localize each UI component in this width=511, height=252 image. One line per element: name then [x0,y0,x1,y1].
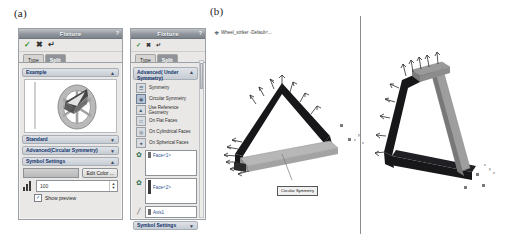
show-preview-label: Show preview [45,195,76,201]
cross-icon[interactable]: ✖ [36,41,43,49]
type-item-symmetry[interactable]: ☰ Symmetry [134,82,197,93]
check-icon[interactable]: ✓ [24,41,31,49]
axis-selection-icon: ╱ [134,206,143,215]
symmetry-icon: ☰ [136,83,146,93]
scrollbar-thumb[interactable] [200,63,203,89]
type-item-use-reference-geometry-label: Use Reference Geometry [149,105,197,115]
axis-selection-box[interactable]: Axis1 [145,206,197,218]
section-advanced[interactable]: Advanced(Circular Symmetry) ▼ [22,146,119,155]
symbol-size-value: 100 [37,183,48,189]
section-symbol-settings-2-label: Symbol Settings [137,222,176,229]
type-item-circular-symmetry[interactable]: ◉ Circular Symmetry [134,93,197,104]
svg-text:x: x [493,171,495,175]
section-symbol-settings[interactable]: Symbol Settings ▲ [22,157,119,166]
dialog-1-toolbar: ✓ ✖ ↵ [19,39,122,52]
help-icon-2[interactable]: ? [199,30,202,36]
dialog-2-toolbar: ✓ ✖ ↵ [131,39,205,52]
tab-type[interactable]: Type [23,54,44,62]
cylindrical-face-icon: ◎ [136,127,146,137]
tab-split[interactable]: Split [45,54,66,62]
tab-split-2[interactable]: Split [157,54,178,62]
type-item-circular-symmetry-label: Circular Symmetry [149,96,186,101]
type-item-on-flat-faces-label: On Flat Faces [149,118,177,123]
symbol-size-icon [23,181,33,191]
panel-a-label: (a) [14,7,27,19]
selection-entry-2: Face<2> [148,180,194,194]
fixture-dialog-2[interactable]: Fixture ? ✓ ✖ ↵ Type Split Advanced( Und… [130,28,206,220]
type-item-symmetry-label: Symmetry [149,85,169,90]
section-standard-label: Standard [26,136,48,143]
face-selection-icon-2: ✿ [134,178,143,187]
selection-marker [148,152,151,158]
check-icon-2[interactable]: ✓ [136,41,141,49]
circular-symmetry-callout: Circular Symmetry [277,186,318,196]
arrow-icon[interactable]: ↵ [48,41,55,49]
chevron-down-icon-advanced[interactable]: ▼ [110,148,115,154]
chevron-down-icon[interactable]: ▼ [110,137,115,143]
part-icon: ❖ [214,29,219,36]
type-item-on-flat-faces[interactable]: □ On Flat Faces [134,115,197,126]
vertical-scrollbar[interactable] [199,60,204,218]
section-advanced-2-label: Advanced( Under Symmetry) [137,69,187,81]
isometric-view-right[interactable]: z y x [372,40,502,205]
cross-icon-2[interactable]: ✖ [146,41,151,49]
chevron-down-icon-symbol-2[interactable]: ▼ [189,223,194,229]
stepper-down-icon[interactable]: ▼ [112,186,116,190]
dialog-2-titlebar: Fixture ? [131,29,205,39]
chevron-up-icon-advanced-2[interactable]: ▲ [189,69,194,75]
tab-type-2[interactable]: Type [135,54,156,62]
face-selection-box-2[interactable]: Face<2> [145,178,197,204]
arrow-icon-2[interactable]: ↵ [156,41,161,49]
section-symbol-settings-label: Symbol Settings [26,158,65,165]
color-row: Edit Color ... [23,168,118,178]
svg-text:x: x [362,141,364,145]
feature-tree-item[interactable]: ❖ Wheel_striker -Default<... [214,29,272,36]
face-selection-value-1: Face<1> [153,153,171,158]
selection-marker-2 [148,180,151,194]
spherical-face-icon: ● [136,138,146,148]
face-selection-group-1[interactable]: ✿ Face<1> [134,150,197,176]
stepper-arrows[interactable]: ▲ ▼ [109,181,117,191]
symbol-size-stepper[interactable]: 100 ▲ ▼ [36,180,118,192]
symbol-size-row: 100 ▲ ▼ [23,180,118,192]
chevron-up-icon[interactable]: ▲ [110,70,115,76]
dialog-1-title: Fixture [60,31,81,37]
selection-entry-3: Axis1 [148,209,164,215]
svg-text:z: z [354,138,356,142]
dialog-1-tabs: Type Split [19,52,122,63]
section-example[interactable]: Example ▲ [22,68,119,77]
dialog-1-titlebar: Fixture ? [19,29,122,39]
feature-tree-label: Wheel_striker -Default<... [221,30,272,35]
type-item-on-spherical-faces[interactable]: ● On Spherical Faces [134,137,197,148]
fixture-dialog-1[interactable]: Fixture ? ✓ ✖ ↵ Type Split Example ▲ [18,28,123,220]
chevron-up-icon-symbol[interactable]: ▲ [110,159,115,165]
show-preview-row[interactable]: ✓ Show preview [34,194,118,202]
section-standard[interactable]: Standard ▼ [22,135,119,144]
face-selection-box-1[interactable]: Face<1> [145,150,197,176]
fixture-type-list: ☰ Symmetry ◉ Circular Symmetry ▲ Use Ref… [134,82,197,148]
axis-selection-group[interactable]: ╱ Axis1 [134,206,197,218]
selection-marker-3 [148,209,151,215]
color-swatch[interactable] [23,168,79,178]
show-preview-checkbox[interactable]: ✓ [34,194,42,202]
isometric-view-left[interactable]: z y x [212,58,372,188]
face-selection-icon-1: ✿ [134,150,143,159]
circular-symmetry-callout-label: Circular Symmetry [281,188,314,193]
edit-color-button[interactable]: Edit Color ... [82,168,118,178]
face-selection-value-2: Face<2> [153,185,171,190]
type-item-on-cylindrical-faces-label: On Cylindrical Faces [149,129,191,134]
figure-root: (a) (b) Fixture ? ✓ ✖ ↵ Type Split Examp… [0,0,511,252]
type-item-use-reference-geometry[interactable]: ▲ Use Reference Geometry [134,104,197,115]
face-selection-group-2[interactable]: ✿ Face<2> [134,178,197,204]
dialog-2-tabs: Type Split [131,52,205,63]
dialog-2-body: Advanced( Under Symmetry) ▲ ☰ Symmetry ◉… [131,63,205,234]
svg-text:z: z [484,163,486,167]
section-example-label: Example [26,69,47,76]
section-advanced-2[interactable]: Advanced( Under Symmetry) ▲ [133,67,198,80]
help-icon[interactable]: ? [116,30,119,36]
type-item-on-cylindrical-faces[interactable]: ◎ On Cylindrical Faces [134,126,197,137]
selection-entry: Face<1> [148,152,194,158]
section-symbol-settings-2[interactable]: Symbol Settings ▼ [133,221,198,230]
section-advanced-label: Advanced(Circular Symmetry) [26,147,98,154]
flat-face-icon: □ [136,116,146,126]
